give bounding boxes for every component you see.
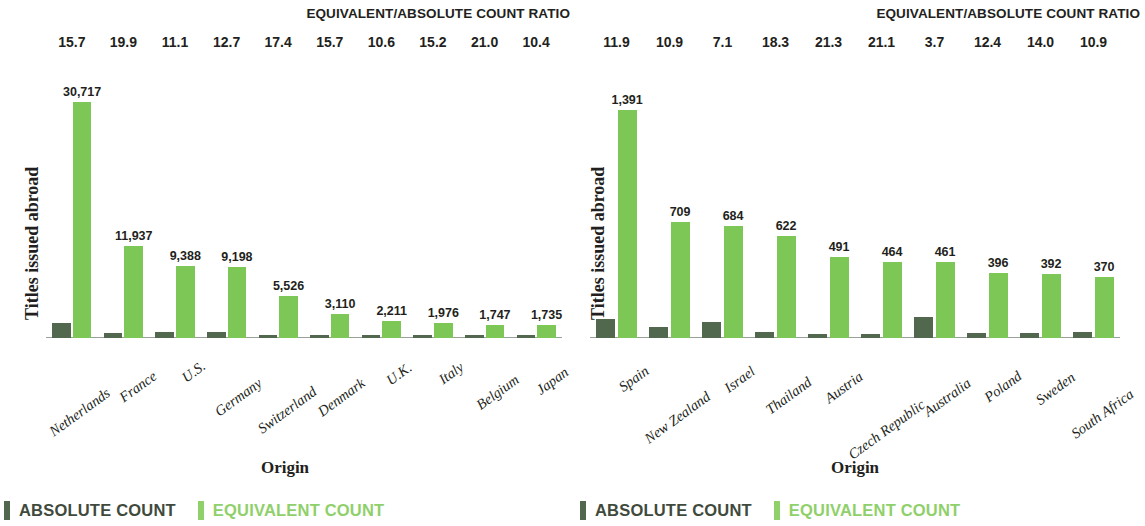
ratio-value: 12.4 bbox=[961, 34, 1014, 50]
x-tick-label-text: U.K. bbox=[383, 359, 415, 389]
bar-absolute-count bbox=[465, 335, 484, 338]
x-tick-label-text: Czech Republic bbox=[845, 396, 928, 463]
x-tick-label: U.S. bbox=[178, 358, 208, 386]
bar-absolute-count bbox=[310, 335, 329, 338]
ratio-value: 18.3 bbox=[749, 34, 802, 50]
bar-value-label: 461 bbox=[935, 245, 956, 259]
ratio-value: 10.6 bbox=[356, 34, 408, 50]
x-tick-label: Switzerland bbox=[254, 383, 319, 437]
bar-equivalent-count bbox=[671, 222, 690, 338]
ratio-value: 21.3 bbox=[802, 34, 855, 50]
x-tick-label: Sweden bbox=[1032, 369, 1078, 409]
x-tick-label-text: Denmark bbox=[315, 375, 369, 420]
bar-equivalent-count bbox=[279, 296, 298, 338]
x-tick-label: Netherlands bbox=[47, 385, 114, 440]
bar-equivalent-count bbox=[1095, 277, 1114, 338]
x-tick-label: Denmark bbox=[315, 375, 369, 420]
ratio-value: 15.2 bbox=[407, 34, 459, 50]
ratio-value: 7.1 bbox=[696, 34, 749, 50]
x-tick-label: Poland bbox=[981, 368, 1025, 406]
x-tick-label-text: Sweden bbox=[1032, 369, 1078, 409]
y-axis-label-left: Titles issued abroad bbox=[22, 167, 43, 320]
x-axis-label-right: Origin bbox=[570, 458, 1140, 478]
x-tick-label: Australia bbox=[920, 375, 974, 420]
bar-value-label: 1,976 bbox=[428, 306, 459, 320]
bar-value-label: 392 bbox=[1041, 257, 1062, 271]
ratio-header-left: EQUIVALENT/ABSOLUTE COUNT RATIO bbox=[0, 6, 576, 21]
bar-absolute-count bbox=[207, 332, 226, 338]
bar-equivalent-count bbox=[73, 102, 92, 338]
x-axis-label-left: Origin bbox=[0, 458, 570, 478]
bar-value-label: 396 bbox=[988, 256, 1009, 270]
ratio-value: 21.1 bbox=[855, 34, 908, 50]
legend-label-absolute: ABSOLUTE COUNT bbox=[19, 501, 176, 520]
bar-value-label: 709 bbox=[670, 205, 691, 219]
ratio-value: 19.9 bbox=[98, 34, 150, 50]
bar-equivalent-count bbox=[1042, 274, 1061, 338]
legend-label-absolute: ABSOLUTE COUNT bbox=[595, 501, 752, 520]
bar-absolute-count bbox=[259, 335, 278, 338]
x-tick-label-text: Netherlands bbox=[47, 385, 114, 440]
legend-swatch-equivalent-icon bbox=[774, 501, 780, 520]
ratio-value: 14.0 bbox=[1014, 34, 1067, 50]
chart-panel-left: EQUIVALENT/ABSOLUTE COUNT RATIO 15.719.9… bbox=[0, 0, 570, 526]
x-tick-label-text: U.S. bbox=[178, 358, 208, 386]
bar-absolute-count bbox=[755, 332, 774, 338]
legend-item-absolute-left: ABSOLUTE COUNT bbox=[4, 501, 176, 520]
bar-equivalent-count bbox=[777, 236, 796, 338]
bar-value-label: 2,211 bbox=[376, 304, 407, 318]
bar-equivalent-count bbox=[331, 314, 350, 338]
x-tick-label-text: Spain bbox=[615, 362, 652, 395]
bar-equivalent-count bbox=[176, 266, 195, 338]
bar-value-label: 1,747 bbox=[479, 308, 510, 322]
bar-absolute-count bbox=[596, 319, 615, 338]
bar-absolute-count bbox=[517, 335, 536, 338]
bar-absolute-count bbox=[1020, 333, 1039, 338]
ratio-value: 11.1 bbox=[149, 34, 201, 50]
ratio-value: 11.9 bbox=[590, 34, 643, 50]
x-tick-label-text: Germany bbox=[212, 375, 266, 420]
ratio-value: 10.9 bbox=[643, 34, 696, 50]
x-tick-label: South Africa bbox=[1068, 386, 1137, 442]
legend-label-equivalent: EQUIVALENT COUNT bbox=[213, 501, 385, 520]
x-tick-label-text: Thailand bbox=[762, 374, 814, 419]
bar-absolute-count bbox=[861, 334, 880, 338]
bar-equivalent-count bbox=[486, 325, 505, 338]
x-tick-label: Belgium bbox=[473, 371, 522, 413]
bar-absolute-count bbox=[155, 332, 174, 338]
x-tick-label-text: France bbox=[116, 368, 160, 406]
bar-equivalent-count bbox=[724, 226, 743, 338]
ratio-values-row-right: 11.910.97.118.321.321.13.712.414.010.9 bbox=[590, 34, 1120, 50]
bar-absolute-count bbox=[702, 322, 721, 338]
ratio-value: 10.4 bbox=[510, 34, 562, 50]
x-tick-label: Israel bbox=[721, 363, 758, 397]
x-tick-label: Thailand bbox=[762, 374, 814, 419]
chart-panel-right: EQUIVALENT/ABSOLUTE COUNT RATIO 11.910.9… bbox=[570, 0, 1140, 526]
legend-left: ABSOLUTE COUNT EQUIVALENT COUNT bbox=[4, 501, 406, 520]
ratio-value: 12.7 bbox=[201, 34, 253, 50]
x-tick-label-text: Austria bbox=[821, 368, 866, 407]
bar-equivalent-count bbox=[434, 323, 453, 338]
x-tick-label: Germany bbox=[212, 375, 266, 420]
bar-equivalent-count bbox=[382, 321, 401, 338]
x-tick-label-text: Belgium bbox=[473, 371, 522, 413]
bar-equivalent-count bbox=[989, 273, 1008, 338]
bar-absolute-count bbox=[914, 317, 933, 338]
x-tick-label: Spain bbox=[615, 362, 652, 395]
bar-equivalent-count bbox=[883, 262, 902, 338]
x-tick-label-text: Switzerland bbox=[254, 383, 319, 437]
x-axis-baseline-left bbox=[46, 337, 562, 338]
bar-equivalent-count bbox=[124, 246, 143, 338]
bar-absolute-count bbox=[52, 323, 71, 338]
x-tick-label: U.K. bbox=[383, 359, 415, 389]
x-tick-label-text: Australia bbox=[920, 375, 974, 420]
bar-value-label: 9,198 bbox=[221, 250, 252, 264]
x-tick-label-text: Israel bbox=[721, 363, 758, 397]
x-tick-label: Italy bbox=[435, 359, 466, 388]
plot-area-left: 30,71711,9379,3889,1985,5263,1102,2111,9… bbox=[46, 100, 562, 338]
legend-right: ABSOLUTE COUNT EQUIVALENT COUNT bbox=[580, 501, 982, 520]
bar-absolute-count bbox=[808, 334, 827, 338]
bar-absolute-count bbox=[104, 333, 123, 338]
x-tick-label-text: New Zealand bbox=[641, 388, 713, 447]
